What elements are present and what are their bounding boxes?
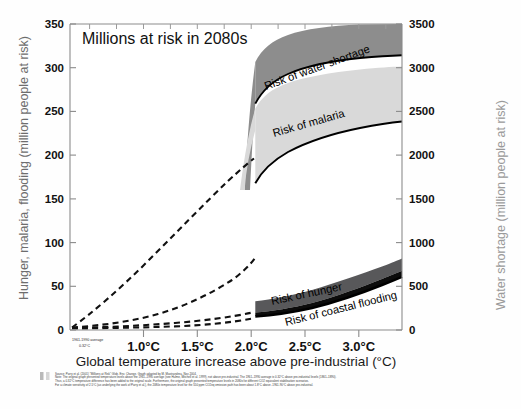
y-axis-right-title: Water shortage (million people at risk) [494, 100, 508, 310]
x-tick-2-0: 2.0°C [235, 339, 268, 354]
y-tick-left-200: 200 [45, 149, 64, 161]
baseline-note: 1961-1990 average 0.32°C [72, 338, 103, 348]
y-tick-right-2500: 2500 [409, 105, 435, 117]
x-tick-3-0: 3.0°C [342, 339, 375, 354]
y-axis-right-tick-labels: 0 500 1000 1500 2000 2500 3000 3500 [409, 18, 435, 336]
x-axis-ticks [144, 330, 359, 337]
y-tick-right-1500: 1500 [409, 193, 435, 205]
baseline-note-line1: 1961-1990 average [72, 338, 103, 342]
y-tick-left-250: 250 [45, 105, 64, 117]
x-tick-1-5: 1.5°C [181, 339, 214, 354]
y-tick-left-300: 300 [45, 62, 64, 74]
y-tick-right-2000: 2000 [409, 149, 435, 161]
y-axis-left-title: Hunger, malaria, flooding (million peopl… [17, 36, 31, 300]
y-tick-right-3000: 3000 [409, 62, 435, 74]
chart-container: 0 50 100 150 200 250 300 350 0 500 1000 … [0, 0, 521, 409]
y-tick-left-50: 50 [51, 280, 64, 292]
x-axis-tick-labels: 1.0°C 1.5°C 2.0°C 2.5°C 3.0°C [127, 339, 376, 354]
y-tick-left-350: 350 [45, 18, 64, 30]
y-tick-right-500: 500 [409, 280, 428, 292]
x-tick-2-5: 2.5°C [289, 339, 322, 354]
footnote-line-4: For a climate sensitivity of 2.5°C (as u… [55, 383, 313, 387]
x-tick-1-0: 1.0°C [127, 339, 160, 354]
y-tick-left-0: 0 [58, 324, 64, 336]
baseline-note-line2: 0.32°C [79, 344, 90, 348]
y-tick-left-150: 150 [45, 193, 64, 205]
y-axis-left-tick-labels: 0 50 100 150 200 250 300 350 [45, 18, 64, 336]
y-tick-right-1000: 1000 [409, 237, 435, 249]
footnote-marker-secondary-icon [46, 372, 50, 380]
y-tick-right-0: 0 [409, 324, 415, 336]
footnote-marker-icon [40, 372, 44, 380]
x-axis-title: Global temperature increase above pre-in… [76, 354, 397, 369]
y-tick-left-100: 100 [45, 237, 64, 249]
risk-vs-temperature-chart: 0 50 100 150 200 250 300 350 0 500 1000 … [0, 0, 521, 409]
chart-title: Millions at risk in 2080s [82, 30, 247, 47]
footnote-block: Source: Parry et al. (2001) "Millions at… [40, 372, 336, 387]
y-tick-right-3500: 3500 [409, 18, 435, 30]
